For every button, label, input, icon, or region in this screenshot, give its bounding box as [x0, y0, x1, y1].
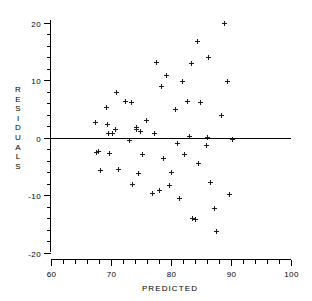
y-axis-title-char: D [15, 123, 21, 132]
y-tick-label--20: -20 [28, 250, 41, 259]
y-tick-label-0: 0 [36, 135, 41, 144]
x-tick-label-80: 80 [167, 270, 177, 279]
plot-canvas: -20-1001020 60708090100 PREDICTED RESIDU… [0, 0, 312, 301]
scatter-plot-figure: -20-1001020 60708090100 PREDICTED RESIDU… [0, 0, 312, 301]
y-axis-title-char: I [17, 114, 19, 123]
y-tick-label-20: 20 [31, 20, 41, 29]
x-axis-title: PREDICTED [142, 284, 198, 293]
y-axis-title-char: A [15, 143, 21, 152]
y-axis-title-char: U [15, 133, 21, 142]
y-axis-title-char: S [15, 162, 20, 171]
x-tick-label-60: 60 [47, 270, 57, 279]
y-tick-label--10: -10 [28, 192, 41, 201]
y-axis-title-char: L [16, 152, 21, 161]
y-axis-title-char: R [15, 85, 21, 94]
y-axis-title-char: E [15, 95, 20, 104]
y-axis-title-char: S [15, 104, 20, 113]
x-tick-label-90: 90 [227, 270, 237, 279]
x-tick-label-100: 100 [284, 270, 299, 279]
x-tick-label-70: 70 [107, 270, 117, 279]
y-tick-label-10: 10 [31, 77, 41, 86]
plot-background [0, 0, 312, 301]
